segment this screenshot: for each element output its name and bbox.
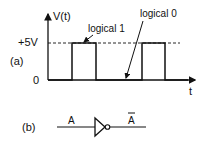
inversion-bubble: [105, 125, 110, 130]
panel-b-label: (b): [22, 121, 35, 133]
y-tick-0: 0: [33, 74, 39, 86]
logical-1-arrow: [84, 35, 93, 42]
y-tick-5v: +5V: [18, 36, 39, 48]
panel-a-label: (a): [10, 55, 23, 67]
output-label: A: [128, 115, 135, 126]
logical-1-label: logical 1: [88, 23, 125, 34]
panel-a: (a) V(t) t +5V 0 logical 1 logical 0: [10, 8, 195, 97]
input-label: A: [68, 115, 75, 126]
not-gate-icon: [95, 118, 105, 136]
x-axis-label: t: [189, 85, 192, 97]
logical-0-label: logical 0: [140, 8, 177, 19]
logical-0-arrow: [126, 21, 143, 78]
panel-b: (b) A A: [22, 113, 146, 136]
square-wave-signal: [48, 43, 188, 80]
logic-diagram: (a) V(t) t +5V 0 logical 1 logical 0 (b)…: [0, 0, 209, 148]
y-axis-label: V(t): [53, 10, 71, 22]
